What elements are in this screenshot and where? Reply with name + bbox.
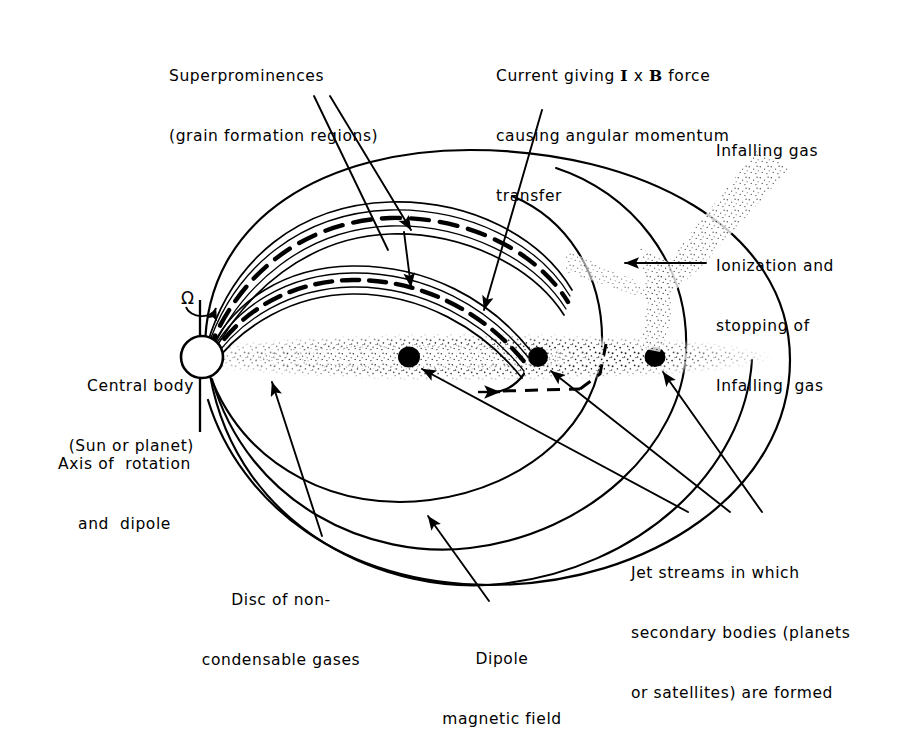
label-current-line2: causing angular momentum <box>496 126 729 146</box>
label-jet-line1: Jet streams in which <box>631 563 850 583</box>
label-current-line3: transfer <box>496 186 729 206</box>
leader-disc <box>272 382 322 536</box>
label-superprominences-line1: Superprominences <box>169 66 378 86</box>
label-dipole-field: Dipole magnetic field <box>404 609 600 731</box>
label-axis-line2: and dipole <box>42 514 207 534</box>
label-ionization: Ionization and stopping of Infalling gas <box>716 216 834 436</box>
label-ionization-line3: Infalling gas <box>716 376 834 396</box>
label-dipole-line1: Dipole <box>404 649 600 669</box>
omega-symbol: Ω <box>181 288 194 308</box>
leader-jet-2 <box>551 371 730 512</box>
label-jet-streams: Jet streams in which secondary bodies (p… <box>631 523 850 731</box>
label-disc-line1: Disc of non- <box>176 590 386 610</box>
label-ionization-line1: Ionization and <box>716 256 834 276</box>
label-ionization-line2: stopping of <box>716 316 834 336</box>
label-current-post: force <box>663 67 711 85</box>
leader-dipole <box>428 516 489 601</box>
label-disc: Disc of non- condensable gases <box>176 550 386 710</box>
label-current-line1: Current giving I x B force <box>496 66 729 86</box>
label-jet-line3: or satellites) are formed <box>631 683 850 703</box>
label-axis-line1: Axis of rotation <box>42 454 207 474</box>
secondary-body-1 <box>398 347 420 368</box>
label-infalling-gas: Infalling gas <box>716 141 818 161</box>
label-superprominences: Superprominences (grain formation region… <box>169 26 378 186</box>
label-current-pre: Current giving <box>496 67 620 85</box>
label-current: Current giving I x B force causing angul… <box>496 26 729 246</box>
label-superprominences-line2: (grain formation regions) <box>169 126 378 146</box>
secondary-body-2 <box>528 347 548 367</box>
label-current-mid: x <box>628 67 649 85</box>
label-disc-line2: condensable gases <box>176 650 386 670</box>
label-central-body-line1: Central body <box>19 376 194 396</box>
label-jet-line2: secondary bodies (planets <box>631 623 850 643</box>
label-dipole-line2: magnetic field <box>404 709 600 729</box>
label-current-B: B <box>649 66 663 85</box>
